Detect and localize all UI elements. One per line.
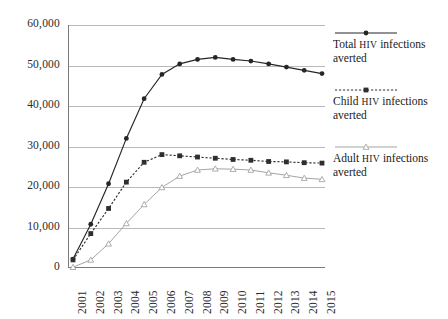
legend-swatch-icon xyxy=(335,81,397,91)
data-point-marker xyxy=(302,160,307,165)
data-point-marker xyxy=(106,206,111,211)
hiv-infections-averted-line-chart: 010,00020,00030,00040,00050,00060,000 20… xyxy=(0,0,448,319)
y-axis-tick-label: 30,000 xyxy=(0,139,60,151)
data-point-marker xyxy=(364,88,369,93)
data-point-marker xyxy=(231,57,236,62)
x-axis-tick-label-2013: 2013 xyxy=(289,290,301,314)
data-point-marker xyxy=(160,152,165,157)
data-point-marker xyxy=(71,258,76,263)
x-axis-labels: 2001200220032004200520062007200820092010… xyxy=(68,270,325,319)
x-axis-tick-label-2004: 2004 xyxy=(129,290,141,314)
data-point-marker xyxy=(213,55,218,60)
legend-label-smallcaps: HIV xyxy=(359,39,377,50)
gridline-0 xyxy=(69,268,325,269)
data-point-marker xyxy=(320,71,325,76)
data-point-marker xyxy=(231,157,236,162)
data-point-marker xyxy=(320,161,325,166)
y-axis-tick-label: 0 xyxy=(0,260,60,272)
data-point-marker xyxy=(106,181,111,186)
data-point-marker xyxy=(124,180,129,185)
data-point-marker xyxy=(88,222,93,227)
data-point-marker xyxy=(142,96,147,101)
x-axis-tick-label-2001: 2001 xyxy=(76,290,88,314)
y-axis-tick-label: 20,000 xyxy=(0,179,60,191)
data-point-marker xyxy=(124,136,129,141)
data-point-marker xyxy=(302,68,307,73)
data-point-marker xyxy=(70,264,76,269)
data-point-marker xyxy=(142,160,147,165)
y-axis-tick-label: 40,000 xyxy=(0,98,60,110)
x-axis-tick-label-2014: 2014 xyxy=(307,290,319,314)
legend-swatch-icon xyxy=(335,24,397,34)
y-axis-tick-label: 50,000 xyxy=(0,58,60,70)
y-axis-labels: 010,00020,00030,00040,00050,00060,000 xyxy=(0,0,64,319)
data-point-marker xyxy=(177,153,182,158)
data-point-marker xyxy=(266,159,271,164)
chart-legend: Total HIV infections avertedChild HIV in… xyxy=(333,24,445,195)
legend-entry-total[interactable]: Total HIV infections averted xyxy=(333,24,445,65)
legend-label: Child HIV infections averted xyxy=(333,95,445,122)
legend-swatch-icon xyxy=(335,138,397,148)
y-axis-tick-label: 10,000 xyxy=(0,220,60,232)
x-axis-tick-label-2011: 2011 xyxy=(254,291,266,314)
y-axis-tick-label: 60,000 xyxy=(0,17,60,29)
legend-entry-child[interactable]: Child HIV infections averted xyxy=(333,81,445,122)
data-point-marker xyxy=(248,59,253,64)
data-point-marker xyxy=(213,156,218,161)
plot-area xyxy=(68,25,325,268)
data-point-marker xyxy=(195,155,200,160)
legend-entry-adult[interactable]: Adult HIV infections averted xyxy=(333,138,445,179)
legend-label-smallcaps: HIV xyxy=(362,153,380,164)
data-point-marker xyxy=(364,31,369,36)
data-point-marker xyxy=(284,159,289,164)
legend-label-smallcaps: HIV xyxy=(361,96,379,107)
x-axis-tick-label-2002: 2002 xyxy=(94,290,106,314)
data-point-marker xyxy=(88,231,93,236)
x-axis-tick-label-2003: 2003 xyxy=(112,290,124,314)
series-layer xyxy=(69,25,326,268)
data-point-marker xyxy=(160,72,165,77)
data-point-marker xyxy=(284,65,289,70)
x-axis-tick-label-2015: 2015 xyxy=(325,290,337,314)
x-axis-tick-label-2006: 2006 xyxy=(165,290,177,314)
x-axis-tick-label-2009: 2009 xyxy=(218,290,230,314)
x-axis-tick-label-2010: 2010 xyxy=(236,290,248,314)
data-point-marker xyxy=(266,61,271,66)
data-point-marker xyxy=(195,57,200,62)
legend-label: Total HIV infections averted xyxy=(333,38,445,65)
legend-label: Adult HIV infections averted xyxy=(333,152,445,179)
data-point-marker xyxy=(248,158,253,163)
x-axis-tick-label-2005: 2005 xyxy=(147,290,159,314)
x-axis-tick-label-2008: 2008 xyxy=(201,290,213,314)
data-point-marker xyxy=(177,61,182,66)
x-axis-tick-label-2007: 2007 xyxy=(183,290,195,314)
data-point-marker xyxy=(159,185,165,190)
x-axis-tick-label-2012: 2012 xyxy=(272,290,284,314)
